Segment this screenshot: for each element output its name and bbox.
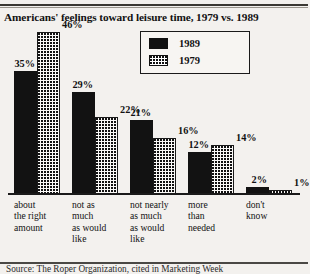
category-label: aboutthe rightamount [14,199,46,233]
category-label: not nearlyas muchas wouldlike [130,199,169,245]
x-axis-baseline [8,193,300,195]
bar-value-label: 35% [14,58,35,69]
category-label-line: as would [130,222,169,233]
bar-group: 12%14% [188,18,234,194]
bar-value-label: 2% [252,174,267,185]
source-note: Source: The Roper Organization, cited in… [6,264,306,274]
category-label-line: much [72,210,106,221]
category-label: don'tknow [246,199,267,222]
top-divider-rule-secondary [0,7,308,8]
category-label-line: more [188,199,215,210]
category-label-line: as would [72,222,106,233]
category-label-line: than [188,210,215,221]
bar-1989 [188,152,211,194]
category-label-line: not as [72,199,106,210]
top-divider-rule [0,4,308,6]
bar-value-label: 1% [294,177,309,188]
bar-group: 35%46% [14,18,60,194]
category-label-line: know [246,210,267,221]
bar-1989 [130,120,153,194]
category-label: morethanneeded [188,199,215,233]
bar-1989 [72,92,95,194]
bar-group: 2%1% [246,18,292,194]
category-label: not asmuchas wouldlike [72,199,106,245]
category-label-line: don't [246,199,267,210]
bar-value-label: 21% [130,107,151,118]
plot-area: 35%46%29%22%21%16%12%14%2%1% [0,18,308,194]
x-axis-category-labels: aboutthe rightamountnot asmuchas wouldli… [0,199,308,255]
bar-1979 [153,138,176,194]
bar-value-label: 29% [72,79,93,90]
category-label-line: not nearly [130,199,169,210]
bar-value-label: 12% [188,139,209,150]
bar-1989 [14,71,37,194]
bar-1979 [211,145,234,194]
bar-1979 [37,32,60,194]
category-label-line: like [130,233,169,244]
bar-1979 [95,117,118,194]
category-label-line: about [14,199,46,210]
category-label-line: like [72,233,106,244]
category-label-line: amount [14,222,46,233]
bar-group: 29%22% [72,18,118,194]
category-label-line: as much [130,210,169,221]
category-label-line: the right [14,210,46,221]
category-label-line: needed [188,222,215,233]
bar-group: 21%16% [130,18,176,194]
